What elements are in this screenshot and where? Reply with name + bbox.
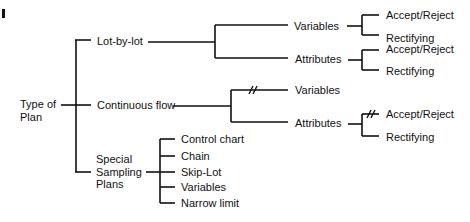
node-lot-attributes: Attributes xyxy=(295,53,341,65)
node-lot-attributes-accept-reject: Accept/Reject xyxy=(386,43,454,55)
root-node-type-of-plan: Type of Plan xyxy=(20,98,56,123)
special-label-line2: Sampling xyxy=(96,166,142,179)
root-label-line1: Type of xyxy=(20,98,56,111)
root-label-line2: Plan xyxy=(20,111,56,124)
node-continuous-attributes: Attributes xyxy=(295,117,341,129)
node-continuous-attributes-rectifying: Rectifying xyxy=(386,131,434,143)
node-lot-attributes-rectifying: Rectifying xyxy=(386,65,434,77)
node-special-variables: Variables xyxy=(181,181,226,193)
special-label-line1: Special xyxy=(96,153,142,166)
node-special-sampling-plans: Special Sampling Plans xyxy=(96,153,142,191)
node-lot-variables-accept-reject: Accept/Reject xyxy=(386,9,454,21)
special-label-line3: Plans xyxy=(96,178,142,191)
sampling-plan-tree-diagram: Type of Plan Lot-by-lot Variables Attrib… xyxy=(0,0,470,222)
node-continuous-attributes-accept-reject: Accept/Reject xyxy=(386,108,454,120)
node-skip-lot: Skip-Lot xyxy=(181,166,221,178)
node-control-chart: Control chart xyxy=(181,133,244,145)
node-lot-variables: Variables xyxy=(294,20,339,32)
node-continuous-variables: Variables xyxy=(295,84,340,96)
node-continuous-flow: Continuous flow xyxy=(97,99,175,111)
node-lot-by-lot: Lot-by-lot xyxy=(97,35,143,47)
node-chain: Chain xyxy=(181,150,210,162)
node-narrow-limit: Narrow limit xyxy=(181,197,239,209)
